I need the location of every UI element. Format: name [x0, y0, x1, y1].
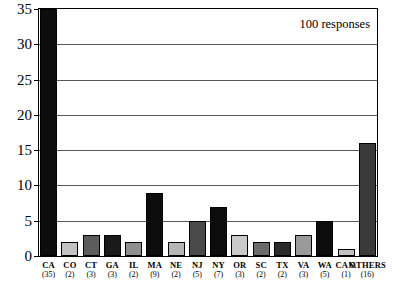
bar-ne	[168, 242, 185, 256]
bar-ct	[83, 235, 100, 256]
bar-or	[231, 235, 248, 256]
annotation-responses: 100 responses	[300, 18, 370, 31]
bar-ny	[210, 207, 227, 256]
x-tick-others: OTHERS(16)	[349, 260, 385, 280]
bar-il	[125, 242, 142, 256]
bar-tx	[274, 242, 291, 256]
y-tick-label: 10	[0, 178, 32, 193]
bar-va	[295, 235, 312, 256]
bars-group	[39, 9, 377, 256]
bar-others	[359, 143, 376, 256]
y-axis: 05101520253035	[0, 0, 32, 290]
y-tick-label: 30	[0, 37, 32, 52]
bar-can	[338, 249, 355, 256]
bar-wa	[316, 221, 333, 256]
y-tick-label: 20	[0, 107, 32, 122]
x-tick-count: (16)	[349, 270, 385, 280]
y-tick-label: 25	[0, 72, 32, 87]
bar-ma	[146, 193, 163, 257]
plot-area: 100 responses	[38, 8, 378, 257]
x-axis: CA(35)CO(2)CT(3)GA(3)IL(2)MA(9)NE(2)NJ(5…	[38, 260, 378, 290]
bar-co	[61, 242, 78, 256]
bar-ca	[40, 9, 57, 256]
bar-chart: 05101520253035 100 responses CA(35)CO(2)…	[0, 0, 396, 290]
bar-ga	[104, 235, 121, 256]
y-tick-label: 5	[0, 213, 32, 228]
y-tick-label: 35	[0, 2, 32, 17]
y-tick-label: 0	[0, 249, 32, 264]
bar-sc	[253, 242, 270, 256]
bar-nj	[189, 221, 206, 256]
x-tick-label: OTHERS	[349, 260, 385, 270]
y-tick-label: 15	[0, 143, 32, 158]
